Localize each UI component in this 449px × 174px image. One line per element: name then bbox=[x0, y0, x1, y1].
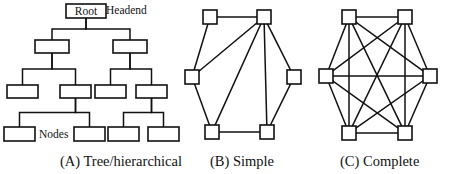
tree-link bbox=[23, 53, 53, 85]
tree-node-box bbox=[95, 85, 126, 98]
simple-node-group bbox=[185, 10, 301, 139]
tree-node-c3 bbox=[108, 127, 139, 141]
tree-node-box bbox=[35, 40, 69, 53]
simple-node-lm bbox=[185, 70, 199, 84]
tree-node-label: Root bbox=[75, 5, 98, 17]
simple-graph-diagram: (B) Simple bbox=[178, 0, 306, 174]
tree-node-c4 bbox=[148, 127, 179, 141]
complete-node-tr bbox=[398, 10, 412, 24]
simple-edge bbox=[212, 17, 264, 132]
tree-link bbox=[52, 53, 76, 85]
tree-link bbox=[124, 98, 152, 127]
simple-node-rm bbox=[287, 70, 301, 84]
tree-node-box bbox=[113, 40, 147, 53]
tree-link bbox=[86, 18, 130, 40]
tree-node-b1 bbox=[7, 85, 38, 98]
complete-node-tl bbox=[342, 10, 356, 24]
complete-node-br bbox=[398, 126, 412, 140]
headend-label: Headend bbox=[106, 4, 147, 16]
complete-node-lm bbox=[319, 69, 333, 83]
tree-link bbox=[76, 98, 90, 127]
tree-link bbox=[130, 53, 152, 85]
tree-node-c1 bbox=[4, 127, 35, 141]
tree-node-a1 bbox=[35, 40, 69, 53]
simple-edge bbox=[264, 17, 294, 77]
complete-edge-group bbox=[326, 17, 430, 133]
tree-node-root: Root bbox=[66, 4, 106, 18]
simple-node-br bbox=[260, 125, 274, 139]
tree-diagram: Root Headend Nodes (A) Tree/hierarchical bbox=[0, 0, 185, 174]
network-topology-figure: Root Headend Nodes (A) Tree/hierarchical… bbox=[0, 0, 449, 174]
panel-simple-graph: (B) Simple bbox=[178, 0, 306, 174]
simple-edge bbox=[192, 17, 210, 77]
simple-node-bl bbox=[205, 125, 219, 139]
complete-node-group bbox=[319, 10, 437, 140]
simple-edge-group bbox=[192, 17, 294, 132]
simple-edge bbox=[267, 77, 294, 132]
tree-link-group bbox=[20, 18, 164, 127]
tree-node-box bbox=[136, 85, 167, 98]
tree-node-c2 bbox=[74, 127, 105, 141]
panel-tree-hierarchical: Root Headend Nodes (A) Tree/hierarchical bbox=[0, 0, 185, 174]
tree-node-box bbox=[60, 85, 91, 98]
tree-node-box bbox=[7, 85, 38, 98]
panel-c-caption: (C) Complete bbox=[340, 153, 419, 170]
panel-complete-graph: (C) Complete bbox=[308, 0, 449, 174]
tree-node-group: Root bbox=[4, 4, 179, 141]
nodes-label: Nodes bbox=[39, 128, 69, 140]
tree-node-box bbox=[148, 127, 179, 141]
tree-node-b4 bbox=[136, 85, 167, 98]
tree-node-box bbox=[74, 127, 105, 141]
tree-node-box bbox=[108, 127, 139, 141]
simple-edge bbox=[192, 17, 264, 77]
tree-link bbox=[111, 53, 131, 85]
complete-graph-diagram: (C) Complete bbox=[308, 0, 449, 174]
tree-node-box bbox=[4, 127, 35, 141]
panel-b-caption: (B) Simple bbox=[210, 153, 274, 170]
panel-a-caption: (A) Tree/hierarchical bbox=[60, 153, 182, 170]
simple-node-tr bbox=[257, 10, 271, 24]
tree-node-b2 bbox=[60, 85, 91, 98]
tree-node-b3 bbox=[95, 85, 126, 98]
tree-link bbox=[20, 98, 76, 127]
tree-link bbox=[152, 98, 164, 127]
complete-node-rm bbox=[423, 69, 437, 83]
simple-edge bbox=[264, 17, 267, 132]
tree-link bbox=[52, 18, 86, 40]
tree-node-a2 bbox=[113, 40, 147, 53]
complete-node-bl bbox=[342, 126, 356, 140]
simple-node-tl bbox=[203, 10, 217, 24]
simple-edge bbox=[192, 77, 212, 132]
